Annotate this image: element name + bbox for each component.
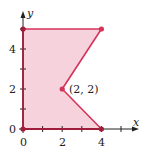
x-tick-label: 0 — [20, 136, 27, 149]
y-tick-label: 4 — [9, 43, 16, 56]
x-tick-label: 2 — [59, 136, 66, 149]
chart-canvas: y x 0 2 4 0 2 4 (2, 2) — [0, 0, 145, 156]
x-axis-label: x — [133, 116, 140, 129]
vertex-point — [20, 26, 25, 31]
point-annotation: (2, 2) — [69, 83, 99, 96]
shaded-region — [23, 29, 101, 129]
vertex-point — [99, 26, 104, 31]
x-tick-label: 4 — [98, 136, 105, 149]
y-tick-label: 2 — [9, 83, 16, 96]
vertex-point — [20, 126, 25, 131]
y-axis-label: y — [26, 7, 34, 20]
y-axis-arrow-icon — [21, 11, 26, 18]
vertex-point — [60, 86, 65, 91]
y-tick-label: 0 — [9, 123, 16, 136]
vertex-point — [99, 126, 104, 131]
